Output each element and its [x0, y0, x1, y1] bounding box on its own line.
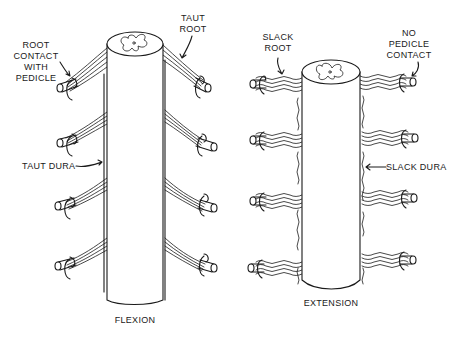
extension-pedicles-left [248, 76, 266, 278]
flexion-cord [107, 44, 163, 305]
flexion-pedicles-left [55, 78, 78, 279]
caption-extension: EXTENSION [300, 298, 362, 309]
slack-root-arrow [277, 58, 284, 74]
label-no-pedicle-contact: NO PEDICLE CONTACT [385, 28, 433, 61]
taut-root-arrow [180, 36, 192, 58]
flexion-pedicles-right [194, 76, 217, 276]
label-slack-dura: SLACK DURA [386, 162, 448, 173]
label-taut-root: TAUT ROOT [176, 13, 210, 35]
slack-dura-arrow [366, 164, 386, 170]
label-slack-root: SLACK ROOT [258, 32, 298, 54]
caption-flexion: FLEXION [111, 315, 159, 326]
extension-roots-left [256, 77, 302, 276]
extension-panel [248, 58, 419, 289]
no-pedicle-arrow [412, 62, 419, 76]
flexion-roots-left [66, 48, 107, 269]
label-root-contact-with-pedicle: ROOT CONTACT WITH PEDICLE [12, 40, 60, 84]
spinal-cord-diagram: ROOT CONTACT WITH PEDICLE TAUT ROOT TAUT… [0, 0, 458, 340]
label-taut-dura: TAUT DURA [22, 161, 80, 172]
root-contact-arrow [60, 62, 70, 76]
extension-cord [302, 72, 360, 289]
